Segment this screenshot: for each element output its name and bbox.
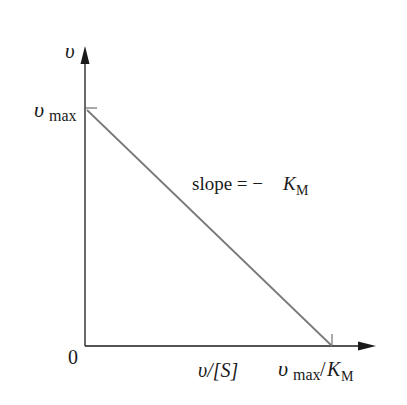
x-axis-arrow-icon [358, 342, 376, 351]
y-axis-arrow-icon [81, 46, 90, 64]
slope-annotation-k: K [282, 173, 297, 194]
y-intercept-label-sub: max [49, 107, 77, 124]
x-intercept-label-slash: / [320, 358, 326, 380]
eadie-hofstee-plot: υ υ max slope = − K M 0 υ/[S] υ max / K … [0, 0, 407, 405]
x-intercept-label-k-sub: M [341, 369, 354, 384]
y-axis-label: υ [65, 39, 75, 63]
x-intercept-label-main: υ [278, 356, 288, 381]
slope-annotation-text: slope = − [192, 173, 263, 194]
y-intercept-label-main: υ [34, 97, 44, 122]
x-intercept-label-sub: max [293, 366, 321, 383]
origin-label: 0 [68, 346, 78, 368]
data-line [87, 110, 332, 346]
x-axis-label: υ/[S] [198, 359, 238, 381]
x-intercept-label-k: K [326, 358, 342, 380]
slope-annotation-k-sub: M [296, 183, 309, 198]
